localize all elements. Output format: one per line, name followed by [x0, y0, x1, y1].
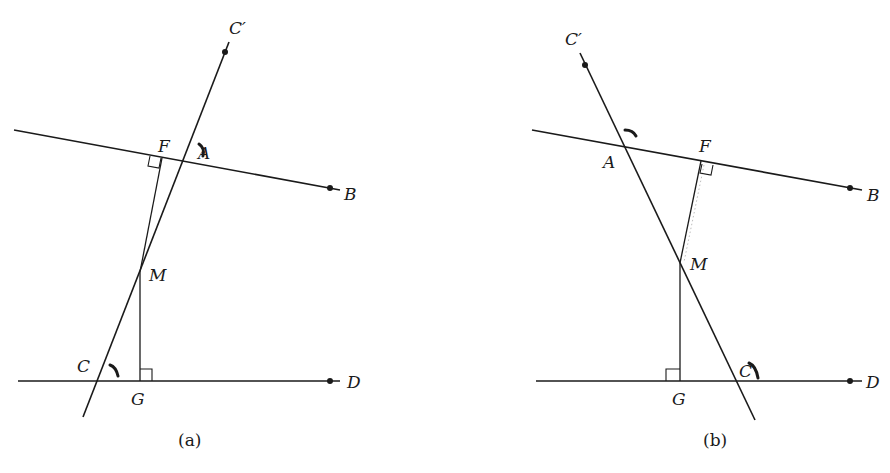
point-c-prime-b [582, 62, 588, 68]
label-d-a: D [346, 372, 361, 392]
label-b-b: B [866, 185, 880, 205]
label-b-a: B [343, 184, 357, 204]
segment-fm-b [680, 161, 701, 263]
transversal-b [580, 53, 755, 420]
point-b-a [327, 185, 333, 191]
label-g-a: G [131, 389, 145, 409]
right-angle-g-b [666, 369, 680, 381]
panel-b: C′ A F B M C G D (b) [532, 29, 880, 450]
label-a-a: A [196, 143, 210, 163]
label-c-prime-a: C′ [229, 18, 246, 38]
label-c-b: C [739, 361, 752, 381]
label-f-b: F [698, 136, 712, 156]
label-f-a: F [157, 136, 171, 156]
panel-a: C′ F A B M C G D (a) [14, 18, 361, 450]
right-angle-f-b [700, 164, 713, 175]
label-m-b: M [689, 254, 708, 274]
angle-mark-a-b [625, 130, 636, 136]
geometry-figure: C′ F A B M C G D (a) C′ A [0, 0, 890, 473]
transversal-a [83, 42, 229, 417]
right-angle-g-a [140, 369, 152, 381]
label-d-b: D [865, 372, 880, 392]
construction-line-b [684, 165, 704, 262]
point-c-prime-a [222, 49, 228, 55]
label-c-prime-b: C′ [565, 29, 582, 49]
point-d-a [327, 378, 333, 384]
caption-b: (b) [703, 430, 727, 450]
angle-mark-c-a [110, 365, 118, 376]
line-ab-a [14, 130, 340, 190]
label-g-b: G [672, 389, 686, 409]
point-d-b [847, 378, 853, 384]
label-m-a: M [148, 265, 167, 285]
label-c-a: C [77, 356, 90, 376]
caption-a: (a) [178, 430, 201, 450]
right-angle-f-a [148, 156, 161, 168]
segment-fm-a [140, 158, 162, 272]
label-a-b: A [601, 152, 615, 172]
point-b-b [847, 185, 853, 191]
